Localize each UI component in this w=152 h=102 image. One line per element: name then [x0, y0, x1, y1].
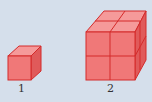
figure-label-2: 2	[107, 82, 114, 95]
large-cube	[86, 11, 146, 80]
unit-cube	[8, 46, 41, 80]
figure-label-1: 1	[18, 82, 25, 95]
